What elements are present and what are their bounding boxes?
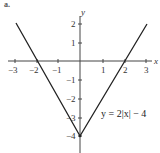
y-tick-label: −4 [66, 131, 76, 141]
y-axis-label: y [80, 7, 85, 17]
x-tick-label: 1 [101, 65, 106, 75]
y-tick-labels: 2 1 −1 −2 −3 −4 [66, 19, 76, 141]
y-tick-label: 2 [71, 19, 76, 29]
y-tick-label: −1 [66, 75, 76, 85]
equation-label: y = 2|x| − 4 [101, 108, 146, 119]
y-tick-label: 1 [71, 38, 76, 48]
x-tick-label: −1 [52, 65, 62, 75]
y-tick-label: −2 [66, 94, 76, 104]
vertex-point [79, 135, 82, 138]
chart: a. x y −3 −2 −1 1 2 3 2 1 −1 −2 −3 −4 [0, 0, 160, 153]
x-axis-label: x [153, 56, 158, 66]
x-tick-label: 3 [144, 65, 149, 75]
x-tick-label: −3 [8, 65, 18, 75]
part-label: a. [4, 0, 10, 9]
x-tick-label: 2 [123, 65, 128, 75]
x-tick-labels: −3 −2 −1 1 2 3 [8, 65, 149, 75]
x-tick-label: −2 [29, 65, 39, 75]
